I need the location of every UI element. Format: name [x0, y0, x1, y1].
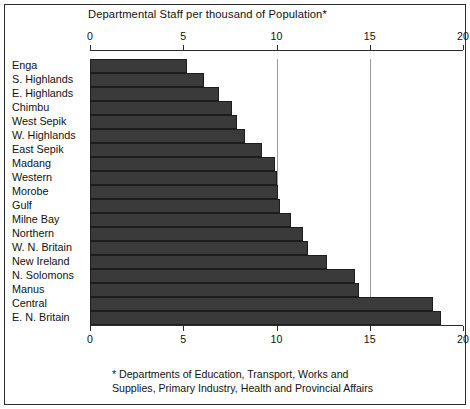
category-label-s-highlands: S. Highlands [12, 72, 73, 86]
bar-row-enga [90, 59, 463, 73]
x-axis-top: 05101520 [90, 45, 463, 59]
x-tick-top-10 [277, 45, 278, 50]
category-label-madang: Madang [12, 156, 51, 170]
bar-row-e-highlands [90, 87, 463, 101]
category-label-east-sepik: East Sepik [12, 142, 64, 156]
bar-e-n-britain [90, 311, 441, 325]
bar-milne-bay [90, 213, 291, 227]
bar-west-sepik [90, 115, 237, 129]
category-label-w-highlands: W. Highlands [12, 128, 76, 142]
x-tick-label-bottom-0: 0 [87, 333, 93, 345]
bar-s-highlands [90, 73, 204, 87]
bar-row-morobe [90, 185, 463, 199]
bar-row-manus [90, 283, 463, 297]
bar-row-madang [90, 157, 463, 171]
bar-gulf [90, 199, 280, 213]
x-tick-bottom-0 [90, 326, 91, 331]
category-label-new-ireland: New Ireland [12, 254, 70, 268]
bar-n-solomons [90, 269, 355, 283]
category-label-manus: Manus [12, 282, 44, 296]
category-label-milne-bay: Milne Bay [12, 212, 59, 226]
chart-footnote: * Departments of Education, Transport, W… [112, 368, 373, 395]
bar-row-east-sepik [90, 143, 463, 157]
bar-enga [90, 59, 187, 73]
category-label-west-sepik: West Sepik [12, 114, 66, 128]
category-label-northern: Northern [12, 226, 54, 240]
bar-madang [90, 157, 275, 171]
x-tick-top-15 [370, 45, 371, 50]
x-tick-bottom-20 [463, 326, 464, 331]
bar-e-highlands [90, 87, 219, 101]
bar-manus [90, 283, 359, 297]
bar-row-milne-bay [90, 213, 463, 227]
category-label-central: Central [12, 296, 47, 310]
bar-row-n-solomons [90, 269, 463, 283]
bar-row-chimbu [90, 101, 463, 115]
axis-line-top [90, 50, 463, 51]
bar-row-western [90, 171, 463, 185]
bar-northern [90, 227, 303, 241]
x-tick-bottom-5 [183, 326, 184, 331]
x-tick-label-top-5: 5 [180, 30, 186, 42]
bar-row-west-sepik [90, 115, 463, 129]
bar-row-e-n-britain [90, 311, 463, 325]
category-label-enga: Enga [12, 58, 37, 72]
category-label-e-highlands: E. Highlands [12, 86, 73, 100]
bar-row-northern [90, 227, 463, 241]
category-axis-labels: EngaS. HighlandsE. HighlandsChimbuWest S… [12, 59, 84, 325]
bar-row-s-highlands [90, 73, 463, 87]
category-label-morobe: Morobe [12, 184, 49, 198]
x-tick-top-5 [183, 45, 184, 50]
x-tick-label-top-10: 10 [271, 30, 283, 42]
category-label-gulf: Gulf [12, 198, 32, 212]
category-label-e-n-britain: E. N. Britain [12, 310, 70, 324]
bar-chimbu [90, 101, 232, 115]
bar-row-new-ireland [90, 255, 463, 269]
x-tick-top-0 [90, 45, 91, 50]
x-axis-bottom: 05101520 [90, 325, 463, 339]
bar-western [90, 171, 277, 185]
category-label-n-solomons: N. Solomons [12, 268, 74, 282]
chart-title: Departmental Staff per thousand of Popul… [88, 8, 327, 20]
x-tick-label-bottom-5: 5 [180, 333, 186, 345]
x-tick-bottom-15 [370, 326, 371, 331]
x-tick-label-bottom-20: 20 [457, 333, 469, 345]
bar-east-sepik [90, 143, 262, 157]
plot-area [90, 59, 463, 325]
category-label-w-n-britain: W. N. Britain [12, 240, 72, 254]
bar-row-central [90, 297, 463, 311]
chart-figure: Departmental Staff per thousand of Popul… [0, 0, 470, 409]
bar-row-w-n-britain [90, 241, 463, 255]
x-tick-label-bottom-15: 15 [364, 333, 376, 345]
x-tick-label-bottom-10: 10 [271, 333, 283, 345]
bar-w-n-britain [90, 241, 308, 255]
x-tick-label-top-15: 15 [364, 30, 376, 42]
x-tick-label-top-20: 20 [457, 30, 469, 42]
x-tick-top-20 [463, 45, 464, 50]
category-label-chimbu: Chimbu [12, 100, 49, 114]
x-tick-bottom-10 [277, 326, 278, 331]
bar-row-gulf [90, 199, 463, 213]
bar-w-highlands [90, 129, 245, 143]
bar-new-ireland [90, 255, 327, 269]
bar-morobe [90, 185, 278, 199]
x-tick-label-top-0: 0 [87, 30, 93, 42]
bar-central [90, 297, 433, 311]
category-label-western: Western [12, 170, 52, 184]
bar-row-w-highlands [90, 129, 463, 143]
